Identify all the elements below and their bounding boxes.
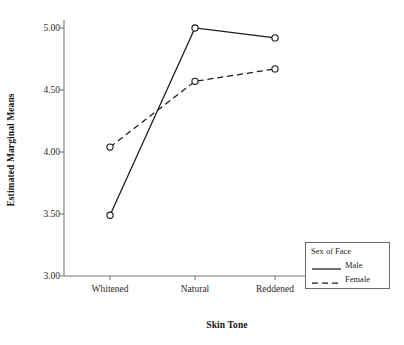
data-point-male-reddened — [272, 35, 278, 41]
chart-container: Estimated Marginal Means 3.003.504.004.5… — [0, 0, 404, 345]
legend-title: Sex of Face — [311, 246, 389, 257]
series-line-male — [110, 28, 275, 215]
legend-swatch-dashed — [311, 274, 342, 284]
x-axis-ticks — [110, 276, 275, 280]
y-axis-ticks — [60, 28, 64, 276]
x-axis-tick-label: Whitened — [92, 284, 129, 294]
data-point-female-whitened — [107, 144, 113, 150]
legend: Sex of Face MaleFemale — [305, 242, 390, 289]
data-series-layer — [107, 25, 278, 218]
x-axis-tick-label: Natural — [181, 284, 210, 294]
data-point-female-reddened — [272, 66, 278, 72]
x-axis-title: Skin Tone — [64, 320, 390, 330]
legend-swatch-solid — [311, 260, 342, 270]
data-point-male-whitened — [107, 212, 113, 218]
legend-label: Male — [345, 260, 362, 270]
legend-label: Female — [345, 274, 370, 284]
legend-entries: MaleFemale — [311, 258, 389, 285]
legend-item-female: Female — [311, 272, 389, 285]
data-point-male-natural — [192, 25, 198, 31]
data-point-female-natural — [192, 78, 198, 84]
x-axis-tick-label: Reddened — [256, 284, 294, 294]
legend-item-male: Male — [311, 258, 389, 271]
